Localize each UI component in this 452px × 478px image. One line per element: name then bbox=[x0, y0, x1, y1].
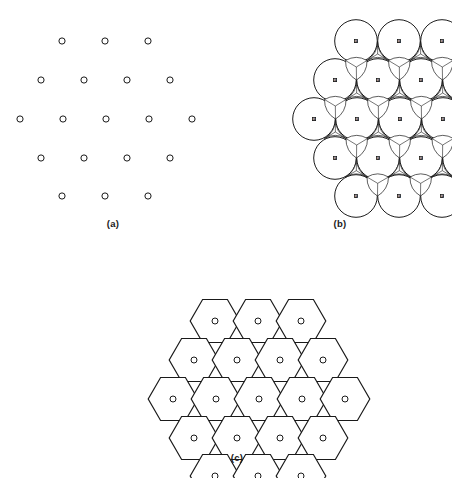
lattice-point bbox=[145, 193, 151, 199]
caption-b: (b) bbox=[333, 218, 346, 229]
panel-c-wigner-seitz-cells bbox=[113, 239, 393, 478]
lattice-point bbox=[103, 116, 109, 122]
lattice-point bbox=[59, 193, 65, 199]
wigner-seitz-cell bbox=[212, 339, 262, 382]
wigner-seitz-cell bbox=[169, 417, 219, 460]
lattice-point bbox=[124, 155, 130, 161]
lattice-point bbox=[167, 77, 173, 83]
lattice-point bbox=[38, 155, 44, 161]
wigner-seitz-cell bbox=[298, 417, 348, 460]
lattice-point bbox=[102, 38, 108, 44]
panel-a-lattice-points bbox=[0, 0, 226, 239]
lattice-point bbox=[102, 193, 108, 199]
lattice-point bbox=[81, 155, 87, 161]
wigner-seitz-cell bbox=[255, 417, 305, 460]
panel-b-svg: aaaaaaaaaaaaaaaaaaa bbox=[226, 0, 452, 239]
caption-a: (a) bbox=[107, 218, 120, 229]
lattice-point bbox=[38, 77, 44, 83]
wigner-seitz-cell bbox=[277, 378, 327, 421]
panel-c-svg bbox=[113, 239, 393, 478]
panel-b-close-packed-circles: aaaaaaaaaaaaaaaaaaa bbox=[226, 0, 452, 239]
wigner-seitz-cell bbox=[255, 339, 305, 382]
panel-a-svg bbox=[0, 0, 226, 239]
wigner-seitz-cell bbox=[320, 378, 370, 421]
lattice-point bbox=[124, 77, 130, 83]
lattice-point bbox=[167, 155, 173, 161]
lattice-point bbox=[17, 116, 23, 122]
figure-hexagonal-lattice: (a) aaaaaaaaaaaaaaaaaaa (b) (c) bbox=[0, 0, 452, 478]
wigner-seitz-cell bbox=[148, 378, 198, 421]
wigner-seitz-cell bbox=[298, 339, 348, 382]
wigner-seitz-cell bbox=[191, 378, 241, 421]
wigner-seitz-cell bbox=[190, 300, 240, 343]
wigner-seitz-cell bbox=[234, 378, 284, 421]
lattice-point bbox=[60, 116, 66, 122]
wigner-seitz-cell bbox=[169, 339, 219, 382]
lattice-point bbox=[81, 77, 87, 83]
lattice-point bbox=[59, 38, 65, 44]
lattice-point bbox=[145, 38, 151, 44]
caption-c: (c) bbox=[231, 452, 244, 463]
lattice-point bbox=[146, 116, 152, 122]
lattice-point bbox=[189, 116, 195, 122]
wigner-seitz-cell bbox=[276, 300, 326, 343]
wigner-seitz-cell bbox=[233, 300, 283, 343]
